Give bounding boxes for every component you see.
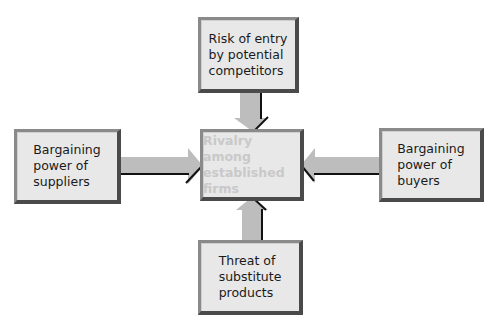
box-supplier-power: Bargaining power of suppliers (14, 129, 121, 204)
arrow-left-to-center (120, 148, 203, 184)
box-label: Rivalry among established firms (203, 133, 300, 197)
box-label: Risk of entry by potential competitors (209, 31, 288, 79)
box-label: Bargaining power of buyers (397, 141, 464, 189)
box-buyer-power: Bargaining power of buyers (379, 128, 484, 202)
box-substitute-threat: Threat of substitute products (198, 240, 303, 315)
arrow-top-to-center (234, 92, 268, 133)
box-label: Bargaining power of suppliers (33, 142, 100, 190)
arrow-bottom-to-center (236, 197, 268, 240)
box-risk-of-entry: Risk of entry by potential competitors (198, 17, 299, 93)
box-label: Threat of substitute products (219, 253, 282, 301)
arrow-right-to-center (301, 148, 379, 183)
box-rivalry: Rivalry among established firms (200, 129, 304, 201)
